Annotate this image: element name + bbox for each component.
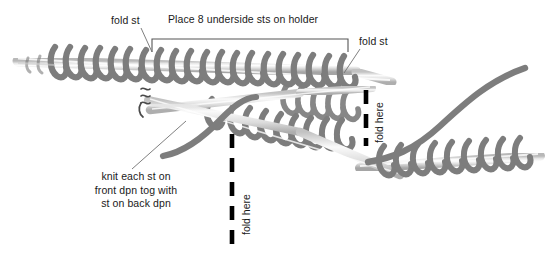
label-fold-st-right: fold st [359,35,388,49]
knitting-diagram-illustration [0,0,553,263]
leader-knit-instruction [132,121,186,169]
label-fold-here-right: fold here [373,102,385,143]
knit-instruction-line-3: st on back dpn [101,197,171,209]
knitting-diagram-page: fold st Place 8 underside sts on holder … [0,0,553,263]
label-fold-st-left: fold st [111,14,140,28]
knit-instruction-line-2: front dpn tog with [95,184,177,196]
label-place-8-underside-sts-on-holder: Place 8 underside sts on holder [168,13,318,27]
knit-instruction-line-1: knit each st on [101,170,170,182]
holder-span-bracket [152,39,348,52]
label-knit-instruction: knit each st onfront dpn tog withst on b… [74,170,198,211]
label-fold-here-center: fold here [240,194,252,235]
